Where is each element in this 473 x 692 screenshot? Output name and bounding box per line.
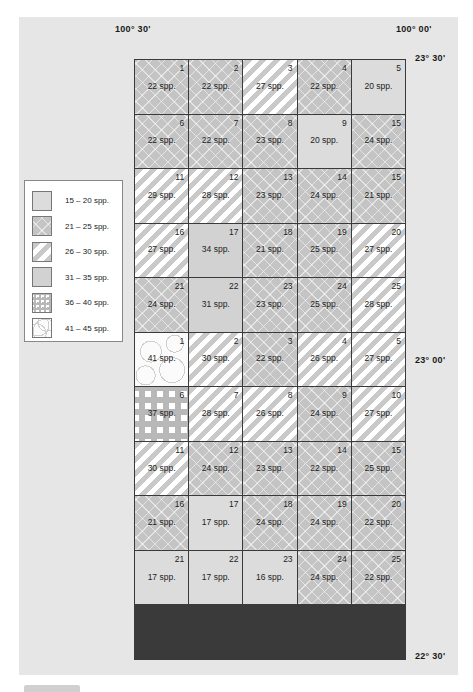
cell-species-count: 24 spp.: [298, 408, 351, 418]
cell-number: 4: [342, 63, 347, 73]
grid-cell: 2231 spp.: [189, 278, 242, 332]
cell-number: 20: [392, 227, 401, 237]
cell-species-count: 20 spp.: [352, 81, 405, 91]
cell-species-count: 26 spp.: [298, 353, 351, 363]
grid-cell: 1129 spp.: [135, 169, 188, 223]
grid-cell: 1027 spp.: [352, 387, 405, 441]
cell-number: 1: [179, 63, 184, 73]
cell-species-count: 22 spp.: [243, 353, 296, 363]
cell-number: 12: [229, 445, 238, 455]
cell-number: 15: [392, 172, 401, 182]
cell-species-count: 24 spp.: [135, 299, 188, 309]
grid-cell: 1224 spp.: [189, 442, 242, 496]
grid-cell: 322 spp.: [243, 333, 296, 387]
cell-species-count: 30 spp.: [135, 463, 188, 473]
legend-item: 36 – 40 spp.: [32, 290, 122, 316]
cell-number: 2: [234, 63, 239, 73]
page-tab: [24, 685, 80, 692]
grid-cell: 1323 spp.: [243, 169, 296, 223]
legend-item: 41 – 45 spp.: [32, 316, 122, 342]
grid-cell: 2022 spp.: [352, 496, 405, 550]
cell-species-count: 21 spp.: [135, 517, 188, 527]
cell-number: 12: [229, 172, 238, 182]
grid-cell: 527 spp.: [352, 333, 405, 387]
grid-cell: 2323 spp.: [243, 278, 296, 332]
grid-cell: 1734 spp.: [189, 224, 242, 278]
cell-species-count: 27 spp.: [352, 353, 405, 363]
cell-species-count: 26 spp.: [243, 408, 296, 418]
cell-species-count: 27 spp.: [352, 408, 405, 418]
cell-species-count: 24 spp.: [243, 517, 296, 527]
cell-species-count: 27 spp.: [135, 244, 188, 254]
cell-species-count: 21 spp.: [243, 244, 296, 254]
cell-number: 17: [229, 499, 238, 509]
cell-number: 24: [337, 554, 346, 564]
grid-cell: 2424 spp.: [298, 551, 351, 605]
cell-species-count: 28 spp.: [189, 408, 242, 418]
cell-species-count: 31 spp.: [189, 299, 242, 309]
cell-number: 16: [175, 227, 184, 237]
grid-cell: 2217 spp.: [189, 551, 242, 605]
cell-number: 7: [234, 390, 239, 400]
cell-species-count: 22 spp.: [189, 81, 242, 91]
cell-number: 18: [283, 227, 292, 237]
cell-number: 24: [337, 281, 346, 291]
legend-label: 36 – 40 spp.: [65, 298, 109, 307]
legend-swatch: [32, 216, 52, 236]
cell-number: 6: [179, 390, 184, 400]
cell-number: 13: [283, 172, 292, 182]
cell-number: 13: [283, 445, 292, 455]
cell-number: 20: [392, 499, 401, 509]
legend-label: 21 – 25 spp.: [65, 222, 109, 231]
cell-number: 3: [288, 336, 293, 346]
longitude-label-left: 100° 30': [115, 24, 151, 34]
cell-number: 5: [396, 63, 401, 73]
cell-species-count: 24 spp.: [189, 463, 242, 473]
grid-cell: 2528 spp.: [352, 278, 405, 332]
cell-species-count: 21 spp.: [352, 190, 405, 200]
grid-cell: 1422 spp.: [298, 442, 351, 496]
cell-species-count: 22 spp.: [298, 81, 351, 91]
cell-number: 16: [175, 499, 184, 509]
grid-cell: 2316 spp.: [243, 551, 296, 605]
cell-species-count: 23 spp.: [243, 299, 296, 309]
cell-number: 25: [392, 281, 401, 291]
latitude-label-mid: 23° 00': [415, 355, 445, 365]
cell-species-count: 22 spp.: [135, 81, 188, 91]
legend-item: 31 – 35 spp.: [32, 265, 122, 291]
grid-cell: 920 spp.: [298, 115, 351, 169]
grid-cell: 2117 spp.: [135, 551, 188, 605]
grid-cell: 1717 spp.: [189, 496, 242, 550]
grid-cell: 622 spp.: [135, 115, 188, 169]
cell-species-count: 24 spp.: [352, 135, 405, 145]
grid-cell: 1824 spp.: [243, 496, 296, 550]
cell-number: 5: [396, 336, 401, 346]
grid-cell: 823 spp.: [243, 115, 296, 169]
grid-cell: 1821 spp.: [243, 224, 296, 278]
cell-species-count: 23 spp.: [243, 190, 296, 200]
grid-cell: 122 spp.: [135, 60, 188, 114]
grid-cell: 2425 spp.: [298, 278, 351, 332]
grid-cell: 1525 spp.: [352, 442, 405, 496]
cell-species-count: 25 spp.: [298, 299, 351, 309]
cell-species-count: 23 spp.: [243, 463, 296, 473]
cell-species-count: 22 spp.: [352, 517, 405, 527]
grid-cell: 826 spp.: [243, 387, 296, 441]
grid-cell: 722 spp.: [189, 115, 242, 169]
cell-number: 18: [283, 499, 292, 509]
cell-species-count: 17 spp.: [135, 572, 188, 582]
grid-cell: 230 spp.: [189, 333, 242, 387]
cell-species-count: 37 spp.: [135, 408, 188, 418]
cell-number: 9: [342, 118, 347, 128]
latitude-label-bottom: 22° 30': [415, 651, 445, 661]
cell-number: 23: [283, 554, 292, 564]
cell-species-count: 24 spp.: [298, 572, 351, 582]
grid-cell: 1621 spp.: [135, 496, 188, 550]
grid-cell: 728 spp.: [189, 387, 242, 441]
legend-label: 15 – 20 spp.: [65, 196, 109, 205]
grid-cell: 1228 spp.: [189, 169, 242, 223]
cell-number: 17: [229, 227, 238, 237]
cell-number: 15: [392, 118, 401, 128]
cell-species-count: 24 spp.: [298, 190, 351, 200]
cell-species-count: 22 spp.: [298, 463, 351, 473]
